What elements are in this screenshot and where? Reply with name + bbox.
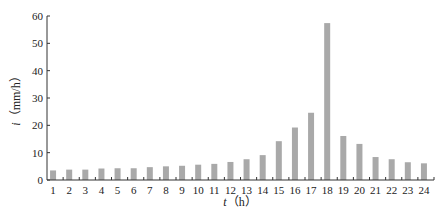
bar	[340, 136, 346, 180]
x-tick-label: 10	[193, 184, 205, 196]
bar	[244, 159, 250, 180]
y-tick-label: 50	[32, 37, 44, 49]
bar	[356, 144, 362, 180]
x-tick-label: 23	[402, 184, 414, 196]
bar	[50, 170, 56, 180]
bar	[211, 164, 217, 180]
x-tick-label: 24	[418, 184, 430, 196]
x-tick-label: 20	[354, 184, 366, 196]
bar	[389, 159, 395, 180]
bar	[147, 167, 153, 180]
x-tick-label: 19	[338, 184, 350, 196]
bar	[373, 157, 379, 180]
x-tick-label: 3	[83, 184, 89, 196]
y-tick-label: 60	[32, 10, 44, 22]
x-tick-label: 14	[257, 184, 269, 196]
bar	[324, 23, 330, 180]
y-tick-label: 40	[32, 65, 44, 77]
bars	[50, 23, 427, 180]
y-tick-label: 10	[32, 147, 44, 159]
x-tick-label: 4	[99, 184, 105, 196]
y-tick-label: 0	[38, 174, 44, 186]
y-tick-label: 30	[32, 92, 44, 104]
bar	[292, 128, 298, 180]
x-tick-label: 1	[50, 184, 56, 196]
x-tick-label: 7	[147, 184, 153, 196]
bar	[308, 113, 314, 180]
y-axis-title: i（mm/h）	[9, 70, 23, 125]
x-tick-label: 5	[115, 184, 121, 196]
bar	[195, 165, 201, 180]
x-tick-label: 18	[322, 184, 334, 196]
x-tick-label: 16	[289, 184, 301, 196]
x-tick-label: 8	[163, 184, 169, 196]
y-tick-label: 20	[32, 119, 44, 131]
bar	[82, 170, 88, 180]
x-tick-label: 11	[209, 184, 220, 196]
axes	[47, 16, 434, 180]
bar	[115, 168, 121, 180]
bar	[227, 162, 233, 180]
x-tick-label: 17	[306, 184, 318, 196]
bar	[98, 169, 104, 180]
bar	[260, 155, 266, 180]
x-axis-title: t（h）	[223, 195, 256, 209]
bar	[66, 170, 72, 180]
x-tick-label: 2	[66, 184, 72, 196]
x-tick-label: 6	[131, 184, 137, 196]
rainfall-intensity-bar-chart: 0102030405060 12345678910111213141516171…	[0, 0, 447, 220]
x-tick-label: 22	[386, 184, 397, 196]
bar	[276, 141, 282, 180]
x-tick-label: 9	[179, 184, 185, 196]
bar	[179, 166, 185, 180]
bar	[131, 168, 137, 180]
x-tick-label: 21	[370, 184, 381, 196]
bar	[163, 166, 169, 180]
bar	[405, 162, 411, 180]
bar	[421, 163, 427, 180]
x-tick-label: 15	[273, 184, 285, 196]
